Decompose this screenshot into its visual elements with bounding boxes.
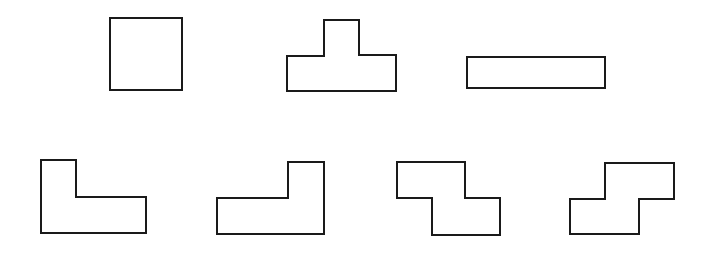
- straight-piece-icon: [467, 57, 605, 88]
- square-piece-icon: [110, 18, 182, 90]
- top-row: [110, 18, 605, 91]
- t-piece-icon: [287, 20, 396, 91]
- shapes-canvas: [0, 0, 708, 258]
- z-piece-icon: [397, 162, 500, 235]
- l-piece-icon: [41, 160, 146, 233]
- s-piece-icon: [570, 163, 674, 234]
- tetromino-figure: [0, 0, 708, 258]
- j-piece-icon: [217, 162, 324, 234]
- bottom-row: [41, 160, 674, 235]
